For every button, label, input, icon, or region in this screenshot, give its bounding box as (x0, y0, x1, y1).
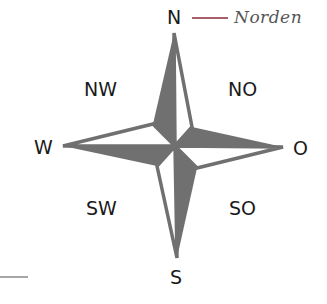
east-arm-filled (175, 127, 283, 147)
label-southwest: SW (86, 199, 117, 218)
label-south: S (170, 268, 182, 287)
compass-diagram: N Norden NW NO W O SW SO S (0, 0, 327, 304)
north-arm-outline (174, 33, 192, 146)
label-southeast: SO (229, 199, 256, 218)
annotation-norden: Norden (234, 9, 302, 26)
west-arm-outline (63, 124, 175, 146)
west-arm-filled (63, 146, 175, 166)
label-northwest: NW (84, 80, 117, 99)
label-west: W (34, 138, 53, 157)
label-north: N (167, 8, 181, 27)
label-east: O (293, 139, 308, 158)
south-arm-outline (157, 146, 177, 258)
label-northeast: NO (228, 80, 257, 99)
